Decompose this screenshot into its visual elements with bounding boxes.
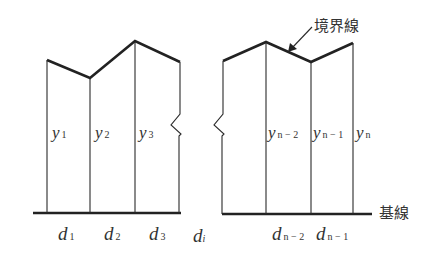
width-var: d <box>316 223 326 244</box>
width-label-d2: d2 <box>104 224 121 243</box>
height-sub: n − 2 <box>278 129 299 140</box>
width-label-d3: d3 <box>149 224 166 243</box>
width-sub: n − 1 <box>328 231 349 242</box>
width-sub: 3 <box>161 231 166 242</box>
height-label-y2: y2 <box>95 124 110 141</box>
width-var: d <box>58 223 68 244</box>
height-label-yn-2: yn − 2 <box>268 124 298 141</box>
width-sub: 2 <box>116 231 121 242</box>
height-label-yn-1: yn − 1 <box>313 124 343 141</box>
width-sub: 1 <box>70 231 75 242</box>
break-line-right <box>214 61 224 214</box>
width-sub: i <box>203 233 206 244</box>
width-label-dn-2: dn − 2 <box>272 224 304 243</box>
width-label-d1: d1 <box>58 224 75 243</box>
height-label-y1: y1 <box>52 124 67 141</box>
height-var: y <box>356 123 364 142</box>
width-var: d <box>149 223 159 244</box>
width-label-di: di <box>193 226 205 245</box>
height-sub: n − 1 <box>323 129 344 140</box>
height-var: y <box>139 123 147 142</box>
height-sub: n <box>366 129 371 140</box>
height-var: y <box>95 123 103 142</box>
width-var: d <box>272 223 282 244</box>
width-var: d <box>193 225 203 246</box>
width-label-dn-1: dn − 1 <box>316 224 348 243</box>
boundary-line-label: 境界線 <box>314 19 359 34</box>
width-var: d <box>104 223 114 244</box>
boundary-line-left <box>47 41 180 78</box>
height-sub: 1 <box>62 129 67 140</box>
height-var: y <box>52 123 60 142</box>
width-sub: n − 2 <box>284 231 305 242</box>
height-label-y3: y3 <box>139 124 154 141</box>
height-sub: 3 <box>149 129 154 140</box>
height-sub: 2 <box>105 129 110 140</box>
height-var: y <box>268 123 276 142</box>
height-var: y <box>313 123 321 142</box>
break-line-left <box>171 62 181 213</box>
height-label-yn: yn <box>356 124 371 141</box>
boundary-leader-line <box>292 27 312 48</box>
baseline-label: 基線 <box>379 206 409 221</box>
